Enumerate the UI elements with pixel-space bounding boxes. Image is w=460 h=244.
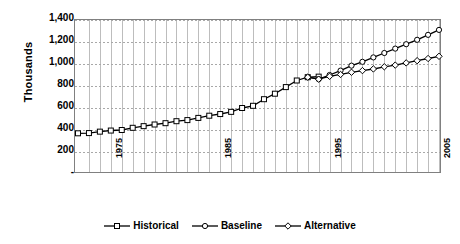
plot-area (74, 19, 441, 173)
y-axis-tick-label: 1,400 (28, 12, 74, 23)
chart-container: Thousands 1,4001,2001,000800600400200- 1… (0, 0, 460, 244)
y-axis-tick-label: 800 (28, 78, 74, 89)
chart-legend: HistoricalBaselineAlternative (0, 220, 460, 231)
data-series-layer (75, 20, 442, 174)
legend-item-alternative[interactable]: Alternative (275, 220, 356, 231)
legend-label: Baseline (221, 220, 262, 231)
y-axis-tick-label: 200 (28, 144, 74, 155)
legend-item-baseline[interactable]: Baseline (192, 220, 262, 231)
legend-marker-square-icon (104, 221, 130, 231)
x-axis-tick-label: 2005 (442, 138, 452, 178)
legend-label: Alternative (304, 220, 356, 231)
legend-label: Historical (133, 220, 179, 231)
y-axis-tick-label: 1,200 (28, 34, 74, 45)
x-axis-tick-label: 1975 (114, 138, 124, 178)
x-axis-tick-label: 1995 (333, 138, 343, 178)
y-axis-tick-label: 600 (28, 100, 74, 111)
legend-marker-circle-icon (192, 221, 218, 231)
legend-marker-diamond-icon (275, 221, 301, 231)
x-axis-tick-label: 1985 (223, 138, 233, 178)
y-axis-tick-label: - (28, 166, 74, 177)
series-baseline (305, 27, 441, 81)
legend-item-historical[interactable]: Historical (104, 220, 179, 231)
y-axis-tick-label: 400 (28, 122, 74, 133)
y-axis-tick-label: 1,000 (28, 56, 74, 67)
series-historical (76, 74, 322, 136)
